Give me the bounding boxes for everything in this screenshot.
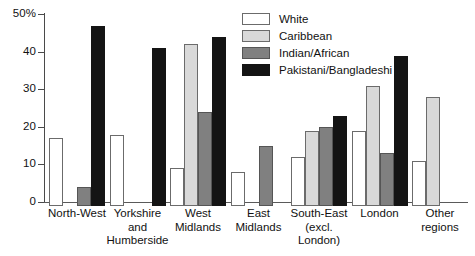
- bar-caribbean: [305, 131, 319, 206]
- bar-chart: 01020304050% North-WestYorkshireandHumbe…: [0, 0, 475, 256]
- bar-pakistani-bangladeshi: [212, 37, 226, 206]
- chart-legend: WhiteCaribbeanIndian/AfricanPakistani/Ba…: [242, 11, 442, 79]
- legend-label: Caribbean: [279, 30, 332, 42]
- y-axis-tick-label: 50%: [0, 8, 36, 20]
- bar-indian-african: [259, 146, 273, 206]
- bar-pakistani-bangladeshi: [152, 48, 166, 206]
- bar-indian-african: [198, 112, 212, 206]
- bar-group: [49, 14, 105, 206]
- bar-caribbean: [184, 44, 198, 206]
- bar-group: [110, 14, 166, 206]
- x-axis-label-line: regions: [394, 221, 475, 235]
- y-axis-tick-label-text: 50%: [13, 8, 36, 20]
- bar-caribbean: [426, 97, 440, 206]
- legend-label: White: [279, 13, 308, 25]
- bar-white: [412, 161, 426, 206]
- x-axis-label-line: Humberside: [92, 234, 184, 248]
- bar-group: [170, 14, 226, 206]
- y-axis-tick-label: 10: [0, 158, 36, 170]
- y-axis-tick-label-text: 40: [23, 46, 36, 58]
- y-axis-tick-label: 30: [0, 83, 36, 95]
- bar-white: [110, 135, 124, 206]
- legend-swatch-white: [242, 13, 270, 25]
- bar-white: [170, 168, 184, 206]
- legend-swatch-pakistani-bangladeshi: [242, 64, 270, 76]
- bar-white: [49, 138, 63, 206]
- legend-item: Caribbean: [242, 28, 442, 43]
- bar-indian-african: [319, 127, 333, 206]
- bar-white: [231, 172, 245, 206]
- y-axis-tick-label: 20: [0, 121, 36, 133]
- bar-white: [352, 131, 366, 206]
- bar-indian-african: [380, 153, 394, 206]
- y-axis-tick-label-text: 20: [23, 121, 36, 133]
- legend-item: Pakistani/Bangladeshi: [242, 62, 442, 77]
- bar-indian-african: [77, 187, 91, 206]
- x-axis-label-line: Other: [394, 207, 475, 221]
- x-axis-label-line: (excl.: [273, 221, 365, 235]
- x-axis-label-line: London): [273, 234, 365, 248]
- bar-caribbean: [366, 86, 380, 206]
- legend-label: Indian/African: [279, 47, 349, 59]
- legend-item: Indian/African: [242, 45, 442, 60]
- legend-swatch-indian-african: [242, 47, 270, 59]
- bar-white: [291, 157, 305, 206]
- y-axis-tick-label: 40: [0, 46, 36, 58]
- legend-label: Pakistani/Bangladeshi: [279, 64, 392, 76]
- bar-pakistani-bangladeshi: [91, 26, 105, 206]
- bar-pakistani-bangladeshi: [333, 116, 347, 206]
- legend-item: White: [242, 11, 442, 26]
- y-axis-tick-label-text: 0: [30, 196, 37, 208]
- x-axis-label: Otherregions: [394, 207, 475, 234]
- y-axis-tick-label-text: 10: [23, 158, 36, 170]
- y-axis-tick-label-text: 30: [23, 83, 36, 95]
- legend-swatch-caribbean: [242, 30, 270, 42]
